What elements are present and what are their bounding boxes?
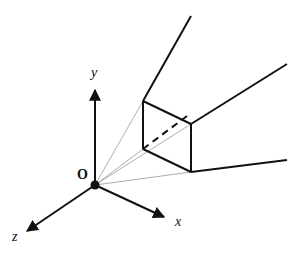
near-face xyxy=(143,101,191,172)
z-axis-label: z xyxy=(12,229,17,245)
origin-dot xyxy=(91,181,100,190)
hidden-edge-dashed xyxy=(143,113,191,149)
edge-top xyxy=(143,16,191,101)
edge-bottom xyxy=(191,160,287,172)
x-axis-label: x xyxy=(175,214,181,230)
x-axis xyxy=(95,185,164,217)
y-axis-label: y xyxy=(91,65,97,81)
diagram-svg xyxy=(0,0,302,255)
edge-right xyxy=(191,64,287,124)
ray-top-left xyxy=(95,101,143,185)
diagram-canvas: O y x z xyxy=(0,0,302,255)
z-axis xyxy=(27,185,95,231)
origin-label: O xyxy=(77,167,88,183)
frustum-edges xyxy=(143,16,287,172)
